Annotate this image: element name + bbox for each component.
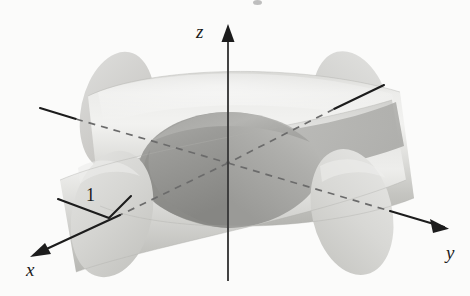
x-axis-label: x: [26, 260, 34, 279]
z-axis-arrowhead: [222, 24, 235, 42]
figure-canvas: z y x 1: [0, 0, 470, 296]
y-axis-negative-solid: [40, 108, 76, 119]
y-axis-arrowhead: [430, 219, 449, 233]
x-axis-arrowhead: [30, 243, 51, 257]
intersecting-cylinders-illustration: [0, 0, 470, 296]
y-axis-label: y: [446, 243, 454, 262]
radius-measure-label: 1: [86, 186, 95, 204]
z-axis-label: z: [196, 22, 203, 41]
